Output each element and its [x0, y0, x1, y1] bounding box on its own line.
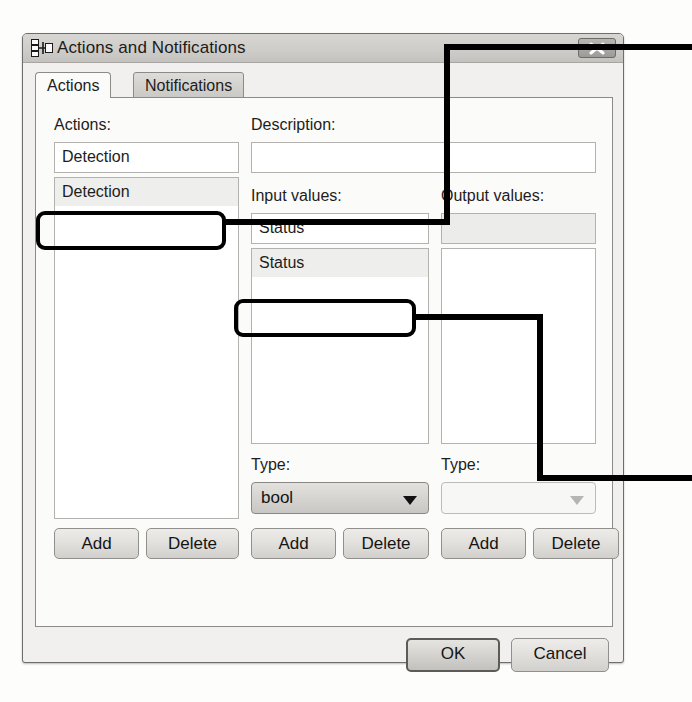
- tabstrip: Actions Notifications: [35, 72, 613, 98]
- output-values-combo-display[interactable]: [441, 213, 596, 244]
- actions-listbox[interactable]: Detection: [54, 177, 239, 519]
- input-values-add-button[interactable]: Add: [251, 528, 336, 559]
- close-icon[interactable]: [578, 38, 616, 58]
- input-type-value: bool: [261, 488, 293, 507]
- input-values-listbox[interactable]: Status: [251, 248, 429, 444]
- input-type-dropdown[interactable]: bool: [251, 482, 429, 514]
- dialog-title: Actions and Notifications: [57, 38, 246, 58]
- output-values-add-button[interactable]: Add: [441, 528, 526, 559]
- cancel-button[interactable]: Cancel: [511, 638, 609, 672]
- input-values-combo-display[interactable]: Status: [251, 213, 429, 244]
- tab-notifications[interactable]: Notifications: [133, 72, 244, 98]
- output-type-label: Type:: [441, 456, 480, 474]
- actions-and-notifications-dialog: Actions and Notifications Actions Notifi…: [22, 33, 624, 663]
- actions-combo-display[interactable]: Detection: [54, 142, 239, 173]
- input-values-label: Input values:: [251, 187, 342, 205]
- actions-label: Actions:: [54, 116, 111, 134]
- output-values-label: Output values:: [441, 187, 544, 205]
- chevron-down-icon: [570, 496, 584, 505]
- list-item[interactable]: Status: [252, 249, 428, 277]
- hierarchy-icon: [31, 39, 53, 58]
- description-label: Description:: [251, 116, 335, 134]
- actions-delete-button[interactable]: Delete: [146, 528, 239, 559]
- actions-add-button[interactable]: Add: [54, 528, 139, 559]
- dialog-titlebar[interactable]: Actions and Notifications: [23, 34, 623, 63]
- screenshot-canvas: Actions and Notifications Actions Notifi…: [0, 0, 692, 702]
- actions-tab-page: Actions: Detection Detection Add Delete …: [35, 97, 613, 627]
- input-values-delete-button[interactable]: Delete: [343, 528, 429, 559]
- output-values-delete-button[interactable]: Delete: [533, 528, 619, 559]
- input-type-label: Type:: [251, 456, 290, 474]
- list-item[interactable]: Detection: [55, 178, 238, 206]
- ok-button[interactable]: OK: [406, 638, 500, 672]
- output-values-listbox[interactable]: [441, 248, 596, 444]
- chevron-down-icon: [403, 496, 417, 505]
- tab-actions[interactable]: Actions: [35, 72, 111, 98]
- output-type-dropdown[interactable]: [441, 482, 596, 514]
- description-field[interactable]: [251, 142, 596, 173]
